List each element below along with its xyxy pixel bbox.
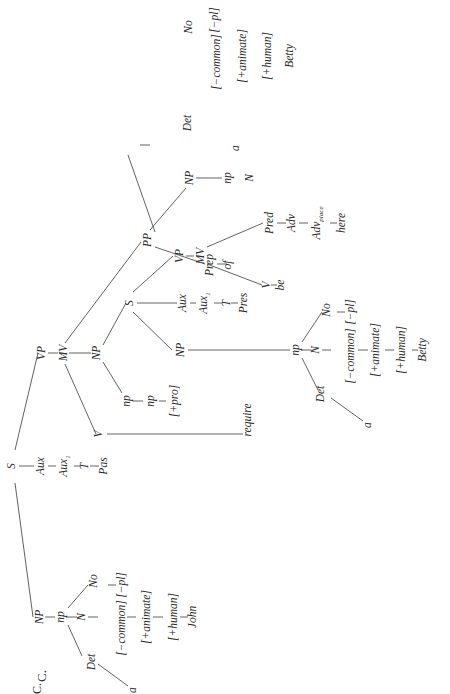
figure-label: C. <box>30 683 44 694</box>
node-Aux1-embedded: Aux1 <box>198 292 212 313</box>
node-VP-main: VP <box>36 346 48 360</box>
node-N-embedded: N <box>310 346 322 354</box>
leaf-here: here <box>336 213 348 233</box>
node-np-subject: np <box>55 611 67 623</box>
feature-human-pp: [+human] <box>262 32 274 80</box>
feature-common-subject: [−common] <box>116 600 128 656</box>
node-NP-embedded: NP <box>175 343 187 358</box>
node-No-embedded: No <box>321 303 333 316</box>
feature-pl-subject: [−pl] <box>116 572 128 598</box>
node-Det-subject: Det <box>86 654 98 671</box>
leaf-require: require <box>242 403 254 436</box>
leaf-betty-pp: Betty <box>284 44 296 68</box>
node-V-embedded: V <box>261 281 273 288</box>
node-Prep: Prep <box>204 254 216 276</box>
node-NP-object: NP <box>91 346 103 361</box>
feature-pl-pp: [−pl] <box>209 7 221 33</box>
leaf-john: John <box>187 606 199 628</box>
node-Aux1-main: Aux1 <box>58 455 72 476</box>
node-VP-embedded: VP <box>174 249 186 263</box>
node-S-embedded: S <box>124 300 136 306</box>
node-No-subject: No <box>88 574 100 587</box>
feature-human-subject: [+human] <box>168 593 180 641</box>
leaf-be: be <box>275 280 287 291</box>
node-Aux-embedded: Aux <box>177 294 189 312</box>
node-T-embedded: T <box>221 300 233 306</box>
node-Adv-place: Advplace <box>311 206 325 239</box>
node-np-pp: np <box>222 172 234 184</box>
node-Pred: Pred <box>264 212 276 234</box>
node-NP-subject: NP <box>34 610 46 625</box>
node-Aux-main: Aux <box>35 457 47 475</box>
node-MV-main: MV <box>58 345 70 362</box>
feature-pro: [+pro] <box>169 385 181 417</box>
feature-animate-pp: [+animate] <box>237 29 249 83</box>
node-np-pro-2: np <box>145 395 157 407</box>
node-Det-pp: Det <box>182 115 194 132</box>
leaf-a-pp: a <box>230 145 242 151</box>
feature-human-embedded: [+human] <box>396 326 408 374</box>
feature-common-pp: [−common] <box>211 34 223 90</box>
node-Adv: Adv <box>286 214 298 232</box>
tree-edges <box>15 145 418 686</box>
feature-animate-subject: [+animate] <box>141 590 153 644</box>
node-Det-embedded: Det <box>315 386 327 403</box>
node-NP-pp: NP <box>184 171 196 186</box>
node-V-main: V <box>93 430 105 437</box>
node-N-pp: N <box>244 174 256 182</box>
node-np-embedded: np <box>290 344 302 356</box>
node-S-root: S <box>6 463 18 469</box>
feature-pl-embedded: [−pl] <box>345 299 357 325</box>
node-T-main: T <box>79 463 91 469</box>
node-PP: PP <box>142 233 154 247</box>
leaf-a-subject: a <box>127 687 139 693</box>
feature-common-embedded: [−common] <box>345 328 357 384</box>
leaf-Pres: Pres <box>238 293 250 314</box>
leaf-Pas: Pas <box>98 457 110 474</box>
leaf-a-embedded: a <box>362 422 374 428</box>
leaf-of: of <box>222 261 234 270</box>
node-No-pp: No <box>183 20 195 33</box>
figure-label: C. <box>35 670 48 682</box>
node-np-pro: np <box>121 395 133 407</box>
tree-labels: C. <box>30 683 44 694</box>
feature-animate-embedded: [+animate] <box>370 323 382 377</box>
leaf-betty-embedded: Betty <box>417 338 429 362</box>
node-N-subject: N <box>76 613 88 621</box>
